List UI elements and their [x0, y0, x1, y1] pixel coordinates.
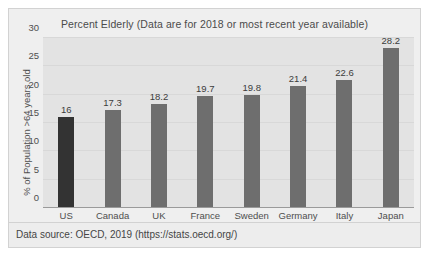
- bar-series: 1617.318.219.719.821.422.628.2: [43, 38, 414, 207]
- bar-group[interactable]: 28.2: [368, 38, 414, 207]
- bar-value-label: 19.8: [242, 82, 261, 93]
- bar-group[interactable]: 16: [43, 38, 89, 207]
- bar-uk[interactable]: [151, 104, 167, 207]
- bar-japan[interactable]: [383, 48, 399, 207]
- bar-group[interactable]: 17.3: [89, 38, 135, 207]
- bar-group[interactable]: 19.8: [229, 38, 275, 207]
- x-axis-label-sweden: Sweden: [229, 210, 275, 221]
- bar-canada[interactable]: [105, 110, 121, 207]
- x-axis-label-germany: Germany: [275, 210, 321, 221]
- bar-value-label: 16: [61, 104, 72, 115]
- x-axis-label-canada: Canada: [89, 210, 135, 221]
- data-source-text: Data source: OECD, 2019 (https://stats.o…: [16, 229, 237, 240]
- x-axis-label-japan: Japan: [368, 210, 414, 221]
- source-band: Data source: OECD, 2019 (https://stats.o…: [9, 222, 420, 247]
- chart-figure: Percent Elderly (Data are for 2018 or mo…: [0, 0, 429, 272]
- y-axis-tick-label: 30: [28, 22, 39, 33]
- y-axis-tick-label: 10: [28, 135, 39, 146]
- x-axis-label-france: France: [182, 210, 228, 221]
- y-axis-tick-label: 0: [34, 192, 39, 203]
- plot-area: 051015202530 1617.318.219.719.821.422.62…: [43, 38, 414, 208]
- bar-us[interactable]: [58, 117, 74, 207]
- bar-france[interactable]: [197, 96, 213, 207]
- bar-group[interactable]: 18.2: [136, 38, 182, 207]
- chart-title: Percent Elderly (Data are for 2018 or mo…: [9, 18, 420, 30]
- bar-value-label: 18.2: [150, 91, 169, 102]
- bar-italy[interactable]: [336, 80, 352, 207]
- bar-germany[interactable]: [290, 86, 306, 207]
- bar-group[interactable]: 22.6: [321, 38, 367, 207]
- y-axis-tick-label: 25: [28, 50, 39, 61]
- chart-card: Percent Elderly (Data are for 2018 or mo…: [8, 8, 421, 248]
- x-axis-line: [43, 207, 414, 208]
- bar-sweden[interactable]: [244, 95, 260, 207]
- y-axis-tick-label: 15: [28, 107, 39, 118]
- x-axis-label-italy: Italy: [321, 210, 367, 221]
- bar-group[interactable]: 21.4: [275, 38, 321, 207]
- x-axis-label-uk: UK: [136, 210, 182, 221]
- y-axis-tick-label: 5: [34, 163, 39, 174]
- bar-value-label: 21.4: [289, 73, 308, 84]
- y-axis-tick-label: 20: [28, 78, 39, 89]
- bar-value-label: 22.6: [335, 67, 354, 78]
- bar-value-label: 17.3: [103, 97, 122, 108]
- bar-value-label: 19.7: [196, 83, 215, 94]
- x-axis-label-us: US: [43, 210, 89, 221]
- bar-value-label: 28.2: [382, 35, 401, 46]
- x-axis-labels: USCanadaUKFranceSwedenGermanyItalyJapan: [43, 210, 414, 221]
- bar-group[interactable]: 19.7: [182, 38, 228, 207]
